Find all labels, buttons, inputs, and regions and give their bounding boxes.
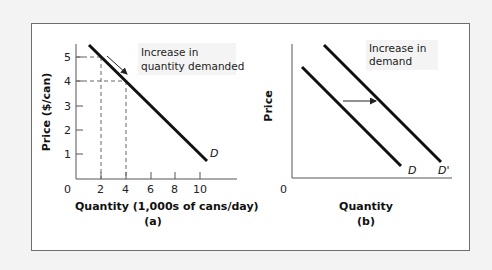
chart-a-xtick-2: 2 [97,183,104,196]
chart-b-demand-curve-d [302,67,401,166]
figure-canvas: Increase in quantity demanded D 5 4 3 2 … [0,0,492,270]
chart-a-ytick-4: 4 [64,75,71,88]
chart-b-panel-label: (b) [357,215,375,228]
chart-b-curve-label-d-prime: D' [438,164,450,177]
chart-b-origin-label: 0 [280,183,287,196]
chart-a-xtick-10: 10 [193,183,207,196]
chart-b-x-axis-title: Quantity [339,200,393,213]
chart-b-curve-label-d: D [408,164,416,177]
chart-a-ytick-2: 2 [64,124,71,137]
chart-a-xtick-8: 8 [171,183,178,196]
chart-a-y-ticks [76,57,83,154]
chart-a-x-ticks [101,172,200,179]
chart-a-xtick-4: 4 [122,183,129,196]
chart-a-annotation-line2: quantity demanded [141,60,244,72]
chart-b-annotation-line2: demand [369,55,412,67]
chart-a-panel-label: (a) [144,215,161,228]
chart-a-annotation-line1: Increase in [141,46,198,58]
chart-b-annotation-line1: Increase in [369,42,426,54]
chart-a-ytick-3: 3 [64,100,71,113]
chart-a-ytick-1: 1 [64,148,71,161]
chart-a-x-axis-title: Quantity (1,000s of cans/day) [75,200,259,213]
chart-a-xtick-6: 6 [147,183,154,196]
chart-a-origin-label: 0 [64,183,71,196]
chart-b: Increase in demand D D' 0 Quantity (b) P… [262,40,452,228]
chart-a: Increase in quantity demanded D 5 4 3 2 … [40,43,259,228]
chart-b-y-axis-title: Price [262,90,275,121]
chart-a-curve-label: D [210,147,218,160]
chart-a-y-axis-title: Price ($/can) [40,73,53,152]
chart-a-ytick-5: 5 [64,51,71,64]
